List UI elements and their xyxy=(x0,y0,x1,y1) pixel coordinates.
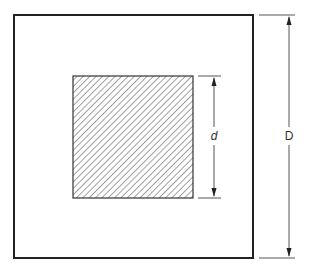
dimension-D: D xyxy=(259,15,295,258)
D-arrow-up-icon xyxy=(287,16,292,25)
d-label: d xyxy=(211,129,218,143)
diagram-canvas: d D xyxy=(0,0,309,272)
inner-square-hatched xyxy=(73,76,193,198)
D-label: D xyxy=(285,129,294,143)
D-arrow-down-icon xyxy=(287,248,292,257)
